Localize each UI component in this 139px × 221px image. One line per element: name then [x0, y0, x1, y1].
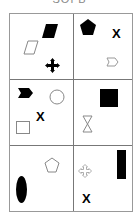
puzzle-title: SOFB: [0, 0, 139, 5]
x-mark: X: [82, 192, 91, 205]
pentagon-filled-icon: [80, 19, 96, 35]
grid-divider-row1: [10, 79, 132, 80]
rectangle-filled-icon: [117, 150, 126, 179]
four-arrow-cross-icon: [45, 58, 60, 73]
grid-divider-vertical: [73, 14, 74, 211]
grid-divider-row2: [10, 145, 132, 146]
x-mark: X: [36, 110, 45, 123]
parallelogram-filled-icon: [42, 24, 58, 38]
hourglass-outline-icon: [82, 115, 93, 133]
ellipse-filled-icon: [16, 176, 27, 203]
four-arrow-cross-outline-icon: [78, 164, 92, 178]
chevron-arrow-filled-icon: [18, 88, 33, 98]
circle-outline-icon: [49, 89, 65, 105]
x-mark: X: [112, 27, 121, 40]
square-filled-icon: [100, 89, 118, 107]
parallelogram-outline-icon: [23, 40, 39, 55]
pentagon-outline-icon: [44, 157, 60, 173]
square-outline-icon: [16, 121, 31, 135]
chevron-pentagon-outline-icon: [106, 57, 119, 67]
